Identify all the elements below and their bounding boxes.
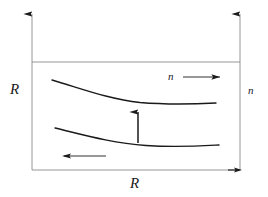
- label-n-right: n: [248, 85, 254, 96]
- label-n-inner: n: [168, 71, 174, 82]
- diagram-frame: [32, 62, 240, 170]
- upper-curve: [52, 80, 216, 104]
- figure-container: R R n n: [0, 0, 268, 197]
- lower-curve: [55, 128, 219, 146]
- label-R-left: R: [10, 82, 19, 97]
- figure-canvas: [0, 0, 268, 197]
- label-R-bottom: R: [130, 176, 139, 191]
